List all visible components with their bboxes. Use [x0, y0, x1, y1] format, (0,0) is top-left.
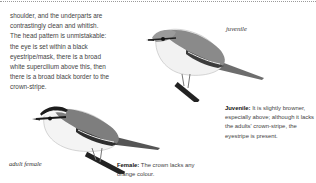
adult-female-caption: adult female [9, 160, 42, 167]
juvenile-label: Juvenile: [225, 105, 251, 111]
juvenile-bird-illustration [146, 22, 266, 102]
juvenile-description: Juvenile: It is slightly browner, especi… [225, 104, 315, 141]
body-paragraph: shoulder, and the underparts are contras… [10, 11, 110, 93]
juvenile-caption: juvenile [226, 25, 247, 32]
female-description: Female: The crown lacks any orange colou… [117, 161, 199, 179]
dotted-top-rule [0, 1, 316, 2]
female-label: Female: [117, 162, 139, 168]
